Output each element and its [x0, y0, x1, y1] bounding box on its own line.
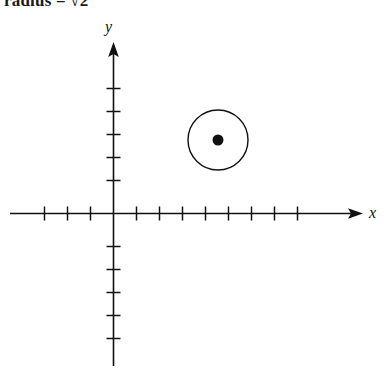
circle-center-dot [213, 135, 224, 146]
circle-with-center-point [188, 110, 248, 170]
y-axis-group [107, 42, 121, 366]
x-axis-group [10, 207, 363, 221]
x-axis-label: x [369, 204, 376, 222]
math-figure: radius = √2 [0, 0, 386, 373]
y-axis-label: y [105, 18, 112, 36]
coordinate-plane [0, 0, 386, 373]
